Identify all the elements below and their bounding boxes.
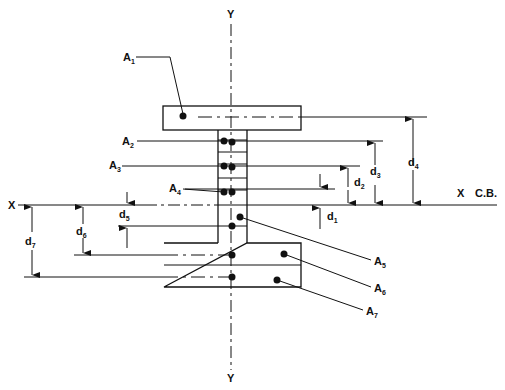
distance-label-d4: d4 <box>408 156 419 170</box>
centroid-label: C.B. <box>475 187 497 199</box>
composite-section-diagram: Y Y X X C.B. A1 A2 A3 A4 A5 A6 A7 d1 d2 … <box>0 0 505 390</box>
distance-label-d1: d1 <box>327 210 338 224</box>
y-axis-top-label: Y <box>227 8 235 20</box>
x-axis-left-label: X <box>8 199 16 211</box>
distance-label-d6: d6 <box>76 225 87 239</box>
area-label-a1: A1 <box>123 51 135 65</box>
area-label-a6: A6 <box>374 282 386 296</box>
y-axis-bottom-label: Y <box>227 372 235 384</box>
a6-leader <box>284 254 371 287</box>
distance-label-d7: d7 <box>25 235 36 249</box>
a7-leader <box>277 280 363 310</box>
area-label-a7: A7 <box>366 305 378 319</box>
area-label-a5: A5 <box>374 255 386 269</box>
area-label-a2: A2 <box>122 135 134 149</box>
distance-label-d3: d3 <box>370 165 381 179</box>
x-axis-right-label: X <box>457 187 465 199</box>
distance-label-d5: d5 <box>119 208 130 222</box>
distance-label-d2: d2 <box>354 176 365 190</box>
area-label-a4: A4 <box>169 182 181 196</box>
a5-leader <box>240 217 371 260</box>
area-label-a3: A3 <box>109 159 121 173</box>
